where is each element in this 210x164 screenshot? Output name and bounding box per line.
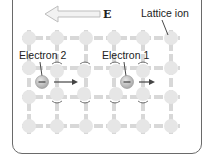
field-label: E — [103, 9, 111, 20]
lattice-ion-label: Lattice ion — [141, 8, 189, 19]
electron-1-label: Electron 1 — [102, 50, 149, 61]
lattice-diagram — [0, 0, 210, 164]
electron-1 — [121, 76, 134, 89]
lattice-ion-leader — [162, 20, 168, 35]
field-arrow-icon — [45, 6, 100, 22]
electron-2-label: Electron 2 — [19, 50, 66, 61]
electron-2 — [36, 76, 49, 89]
velocity-arrows — [54, 79, 155, 85]
